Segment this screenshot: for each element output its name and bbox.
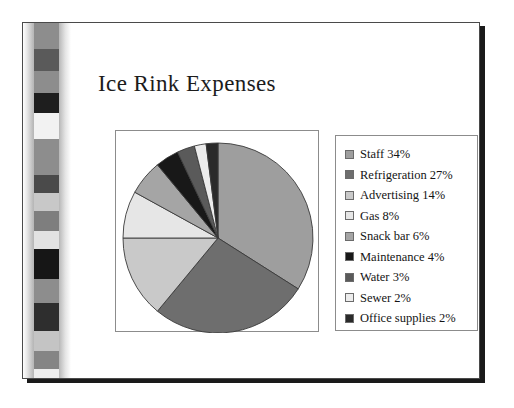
legend-item: Snack bar 6% xyxy=(345,226,477,247)
legend-item-label: Staff 34% xyxy=(360,148,410,161)
legend-item: Sewer 2% xyxy=(345,288,477,309)
chart-plot-area xyxy=(115,130,319,332)
decorative-block xyxy=(34,71,59,93)
decorative-block xyxy=(34,211,59,231)
legend-swatch-icon xyxy=(345,273,354,282)
decorative-block xyxy=(34,231,59,249)
legend-item: Maintenance 4% xyxy=(345,247,477,268)
legend-item-label: Advertising 14% xyxy=(360,189,445,202)
legend-item-label: Gas 8% xyxy=(360,210,399,223)
legend-item: Advertising 14% xyxy=(345,185,477,206)
decorative-block xyxy=(34,113,59,139)
decorative-block xyxy=(34,193,59,211)
presentation-slide: Ice Rink Expenses Staff 34%Refrigeration… xyxy=(22,22,480,379)
page-title: Ice Rink Expenses xyxy=(98,71,276,97)
legend-item: Water 3% xyxy=(345,267,477,288)
chart-legend: Staff 34%Refrigeration 27%Advertising 14… xyxy=(335,135,478,331)
decorative-block xyxy=(34,175,59,193)
legend-item-label: Maintenance 4% xyxy=(360,251,444,264)
legend-swatch-icon xyxy=(345,252,354,261)
legend-item: Gas 8% xyxy=(345,206,477,227)
decorative-block xyxy=(34,49,59,71)
legend-item-label: Water 3% xyxy=(360,271,409,284)
decorative-block xyxy=(34,279,59,303)
decorative-block-strip xyxy=(34,23,59,378)
legend-item: Office supplies 2% xyxy=(345,308,477,329)
legend-swatch-icon xyxy=(345,170,354,179)
decorative-block xyxy=(34,303,59,331)
decorative-side-band xyxy=(23,23,71,378)
decorative-block xyxy=(34,369,59,379)
legend-swatch-icon xyxy=(345,293,354,302)
legend-swatch-icon xyxy=(345,232,354,241)
legend-item-label: Refrigeration 27% xyxy=(360,169,453,182)
decorative-block xyxy=(34,249,59,279)
legend-item-label: Snack bar 6% xyxy=(360,230,429,243)
legend-swatch-icon xyxy=(345,150,354,159)
legend-swatch-icon xyxy=(345,314,354,323)
decorative-block xyxy=(34,139,59,175)
decorative-block xyxy=(34,331,59,351)
decorative-block xyxy=(34,23,59,49)
decorative-block xyxy=(34,351,59,369)
legend-item: Refrigeration 27% xyxy=(345,165,477,186)
legend-item-label: Sewer 2% xyxy=(360,292,411,305)
legend-swatch-icon xyxy=(345,211,354,220)
legend-item: Staff 34% xyxy=(345,144,477,165)
decorative-block xyxy=(34,93,59,113)
legend-swatch-icon xyxy=(345,191,354,200)
legend-item-label: Office supplies 2% xyxy=(360,312,456,325)
pie-chart xyxy=(116,131,320,333)
